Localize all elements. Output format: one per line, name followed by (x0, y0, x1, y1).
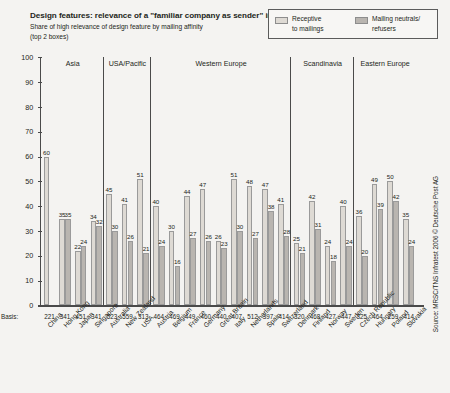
bar-neutrals (65, 219, 71, 306)
bar-value-label: 21 (297, 245, 308, 252)
bar-value-label: 24 (344, 238, 355, 245)
bar-neutrals (253, 238, 259, 305)
bar-neutrals (393, 201, 399, 305)
y-axis-tick-label: 80 (11, 103, 33, 112)
y-axis-tick-mark (38, 157, 42, 158)
bar-value-label: 47 (260, 181, 271, 188)
bar-value-label: 24 (322, 238, 333, 245)
bar-receptive (200, 189, 206, 306)
y-axis-tick-label: 90 (11, 78, 33, 87)
bar-neutrals (331, 261, 337, 306)
bar-neutrals (284, 236, 290, 305)
legend-label-receptive: Receptiveto mailings (292, 14, 324, 33)
bar-neutrals (128, 241, 134, 305)
bar-value-label: 35 (400, 211, 411, 218)
bar-value-label: 40 (150, 198, 161, 205)
bar-receptive (169, 231, 175, 305)
bar-value-label: 18 (328, 253, 339, 260)
bar-value-label: 49 (369, 176, 380, 183)
y-axis-tick-label: 40 (11, 202, 33, 211)
y-axis-tick-label: 0 (11, 301, 33, 310)
bar-value-label: 39 (375, 201, 386, 208)
y-axis-tick-mark (38, 132, 42, 133)
bar-receptive (247, 186, 253, 305)
bar-receptive (44, 157, 50, 306)
bar-value-label: 25 (291, 235, 302, 242)
bar-value-label: 28 (281, 228, 292, 235)
bar-receptive (340, 206, 346, 305)
group-label: USA/Pacific (79, 60, 175, 68)
bar-value-label: 45 (104, 186, 115, 193)
bar-neutrals (96, 226, 102, 305)
bar-receptive (184, 196, 190, 305)
y-axis-tick-label: 50 (11, 177, 33, 186)
bar-value-label: 27 (250, 230, 261, 237)
bar-receptive (91, 221, 97, 305)
bar-value-label: 16 (172, 258, 183, 265)
bar-receptive (137, 179, 143, 305)
bar-value-label: 47 (197, 181, 208, 188)
y-axis-tick-label: 70 (11, 127, 33, 136)
bar-receptive (403, 219, 409, 306)
bar-neutrals (378, 209, 384, 306)
bar-value-label: 44 (182, 188, 193, 195)
bar-value-label: 50 (385, 173, 396, 180)
chart-legend: Receptiveto mailings Mailing neutrals/re… (268, 9, 438, 39)
page-title: Design features: relevance of a "familia… (30, 11, 282, 20)
bar-neutrals (190, 238, 196, 305)
legend-swatch-neutrals (355, 17, 368, 24)
bar-value-label: 31 (313, 221, 324, 228)
bar-value-label: 26 (213, 233, 224, 240)
bar-neutrals (112, 231, 118, 305)
bar-neutrals (221, 248, 227, 305)
bar-receptive (106, 194, 112, 306)
y-axis-tick-label: 20 (11, 251, 33, 260)
bar-value-label: 24 (406, 238, 417, 245)
bar-value-label: 24 (78, 238, 89, 245)
bar-receptive (231, 179, 237, 305)
y-axis-tick-mark (38, 206, 42, 207)
bar-value-label: 36 (354, 208, 365, 215)
bar-value-label: 41 (275, 196, 286, 203)
bar-value-label: 40 (338, 198, 349, 205)
bar-value-label: 23 (219, 240, 230, 247)
bar-value-label: 32 (94, 218, 105, 225)
y-axis-tick-label: 60 (11, 152, 33, 161)
bar-receptive (356, 216, 362, 305)
group-separator (290, 57, 291, 305)
legend-label-neutrals: Mailing neutrals/refusers (372, 14, 420, 33)
group-separator (353, 57, 354, 305)
bar-value-label: 35 (63, 211, 74, 218)
y-axis-tick-mark (38, 107, 42, 108)
group-separator (103, 57, 104, 305)
chart-figure: Design features: relevance of a "familia… (0, 0, 450, 393)
bar-value-label: 26 (125, 233, 136, 240)
bar-value-label: 24 (156, 238, 167, 245)
y-axis-tick-mark (38, 231, 42, 232)
bar-neutrals (362, 256, 368, 306)
bar-receptive (153, 206, 159, 305)
bar-value-label: 48 (244, 178, 255, 185)
bar-neutrals (346, 246, 352, 306)
y-axis-tick-mark (38, 57, 42, 58)
bar-neutrals (315, 229, 321, 306)
bar-neutrals (237, 231, 243, 305)
basis-label: Basis: (1, 313, 18, 320)
bar-neutrals (268, 211, 274, 305)
bar-value-label: 51 (229, 171, 240, 178)
x-axis-line (38, 305, 424, 306)
y-axis-tick-label: 10 (11, 276, 33, 285)
y-axis-tick-mark (38, 82, 42, 83)
legend-swatch-receptive (275, 17, 288, 24)
source-credit: Source: MRSC/TNS Infratest 2006 © Deutsc… (432, 176, 439, 332)
bar-receptive (216, 241, 222, 305)
group-label: Eastern Europe (337, 60, 433, 68)
y-axis-tick-mark (38, 281, 42, 282)
bar-neutrals (175, 266, 181, 306)
chart-subtitle-line1: Share of high relevance of design featur… (30, 23, 203, 30)
bar-receptive (278, 204, 284, 306)
bar-receptive (294, 243, 300, 305)
bar-value-label: 21 (141, 245, 152, 252)
bar-receptive (309, 201, 315, 305)
bar-value-label: 51 (135, 171, 146, 178)
